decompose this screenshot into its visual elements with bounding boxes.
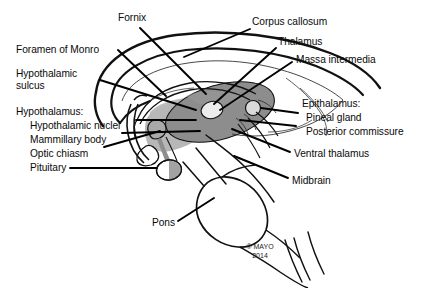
label-epithalamus-heading: Epithalamus: [302, 98, 360, 110]
copyright-line2: 2014 [232, 252, 288, 260]
label-optic-chiasm: Optic chiasm [30, 148, 88, 160]
label-hypothalamic-sulcus-line1: Hypothalamic [16, 68, 77, 80]
label-mammillary-body: Mammillary body [30, 134, 106, 146]
label-corpus-callosum: Corpus callosum [252, 16, 327, 28]
label-thalamus: Thalamus [278, 36, 322, 48]
label-ventral-thalamus: Ventral thalamus [294, 148, 369, 160]
label-hypothalamic-nuclei: Hypothalamic nuclei [30, 120, 120, 132]
label-foramen-of-monro: Foramen of Monro [16, 44, 99, 56]
label-pons: Pons [152, 217, 175, 229]
label-posterior-commissure: Posterior commissure [306, 126, 404, 138]
label-hypothalamus-heading: Hypothalamus: [16, 106, 83, 118]
label-pituitary: Pituitary [30, 162, 66, 174]
diagram-canvas: Fornix Corpus callosum Thalamus Massa in… [0, 0, 427, 288]
copyright-line1: © MAYO [232, 243, 288, 251]
mammillary-body-shape [148, 120, 166, 139]
label-hypothalamic-sulcus-line2: sulcus [16, 80, 45, 92]
label-midbrain: Midbrain [292, 175, 331, 187]
label-fornix: Fornix [118, 12, 146, 24]
label-pineal-gland: Pineal gland [306, 112, 361, 124]
label-massa-intermedia: Massa intermedia [296, 54, 376, 66]
